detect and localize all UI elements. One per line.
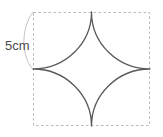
figure-canvas: 5cm bbox=[0, 0, 163, 137]
geometry-figure: 5cm bbox=[0, 0, 163, 137]
dimension-label-5cm: 5cm bbox=[5, 38, 30, 53]
